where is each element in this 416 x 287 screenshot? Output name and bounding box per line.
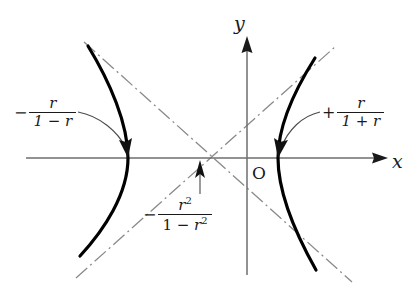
figure-canvas <box>0 0 416 287</box>
asymptote-up-right-line <box>76 46 336 278</box>
y-axis-label: y <box>234 12 245 34</box>
right-vertex-label: +r1 + r <box>322 96 384 129</box>
left-branch-curve <box>80 46 128 256</box>
right-label-sign: + <box>322 105 337 121</box>
origin-label: O <box>252 163 266 183</box>
x-axis-arrowhead <box>372 153 388 164</box>
hyperbola-figure: −r1 − r +r1 + r −r21 − r2 x y O <box>0 0 416 287</box>
y-axis-arrowhead <box>242 36 253 53</box>
axes <box>26 36 388 275</box>
right-label-denominator: 1 + r <box>337 112 384 129</box>
center-label-denominator: 1 − r2 <box>158 214 211 233</box>
center-label-numerator: r2 <box>158 196 211 214</box>
right-branch-curve <box>278 58 316 270</box>
right-label-numerator: r <box>337 96 384 112</box>
center-label-fraction: r21 − r2 <box>158 196 211 233</box>
left-leader-line <box>78 112 126 148</box>
center-denominator-lead: 1 − <box>162 216 194 234</box>
left-label-fraction: r1 − r <box>29 96 76 129</box>
left-label-numerator: r <box>29 96 76 112</box>
left-label-sign: − <box>14 105 29 121</box>
center-label: −r21 − r2 <box>143 196 212 233</box>
asymptotes <box>76 42 352 282</box>
left-vertex-label: −r1 − r <box>14 96 76 129</box>
x-axis-label: x <box>392 150 403 172</box>
right-label-fraction: r1 + r <box>337 96 384 129</box>
center-label-sign: − <box>143 207 158 223</box>
asymptote-down-right-line <box>84 42 352 282</box>
left-label-denominator: 1 − r <box>29 112 76 129</box>
center-denominator-exponent: 2 <box>201 215 207 226</box>
center-numerator-exponent: 2 <box>185 195 191 206</box>
